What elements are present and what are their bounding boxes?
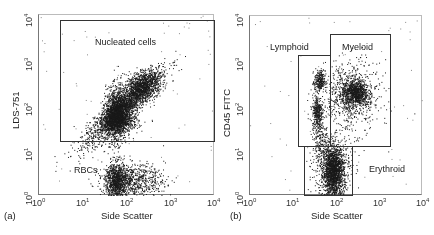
xtick-b-4: 104 bbox=[416, 197, 429, 208]
gate-erythroid bbox=[304, 146, 353, 196]
panel-label-b: (b) bbox=[230, 210, 242, 221]
ytick-b-3: 103 bbox=[234, 58, 245, 71]
xlabel-b: Side Scatter bbox=[311, 210, 363, 221]
ylabel-b: CD45 FITC bbox=[221, 89, 232, 137]
xtick-b-3: 103 bbox=[373, 197, 386, 208]
xtick-b-0: 100 bbox=[243, 197, 256, 208]
label-lymphoid: Lymphoid bbox=[270, 42, 309, 52]
xtick-b-2: 102 bbox=[330, 197, 343, 208]
gate-lymphoid bbox=[298, 55, 331, 147]
ytick-b-1: 101 bbox=[234, 148, 245, 161]
panel-b: Lymphoid Myeloid Erythroid 104 103 102 1… bbox=[0, 0, 434, 235]
ytick-b-2: 102 bbox=[234, 103, 245, 116]
ytick-b-4: 104 bbox=[234, 14, 245, 27]
xtick-b-1: 101 bbox=[286, 197, 299, 208]
label-myeloid: Myeloid bbox=[342, 42, 373, 52]
plot-frame-b: Lymphoid Myeloid Erythroid bbox=[249, 15, 422, 195]
label-erythroid: Erythroid bbox=[369, 164, 405, 174]
